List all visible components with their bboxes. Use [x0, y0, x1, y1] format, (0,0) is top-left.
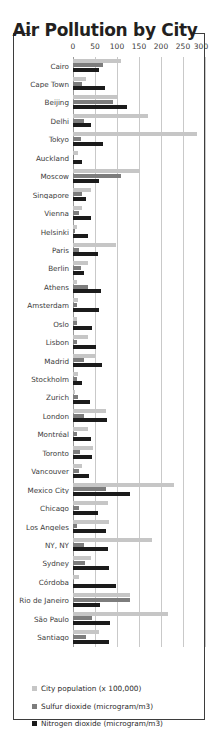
legend-label: Sulfur dioxide (microgram/m3)	[41, 702, 153, 711]
bar-so2	[73, 358, 84, 362]
category-label: Singapore	[0, 192, 73, 199]
category-label: Chicago	[0, 505, 73, 512]
chart-legend: City population (x 100,000)Sulfur dioxid…	[32, 684, 207, 737]
bar-so2	[73, 119, 84, 123]
bar-pop	[73, 261, 88, 265]
bar-group	[73, 112, 210, 130]
category-label: Moscow	[0, 173, 73, 180]
bar-group	[73, 205, 210, 223]
bar-so2	[73, 598, 130, 602]
bar-so2	[73, 266, 81, 270]
category-label: Vancouver	[0, 468, 73, 475]
bar-row: NY, NY	[0, 536, 210, 554]
bar-row: Moscow	[0, 168, 210, 186]
bar-group	[73, 186, 210, 204]
bar-group	[73, 297, 210, 315]
bar-so2	[73, 229, 75, 233]
bar-row: Cairo	[0, 57, 210, 75]
bar-group	[73, 223, 210, 241]
bar-group	[73, 592, 210, 610]
category-label: Los Angeles	[0, 524, 73, 531]
bar-pop	[73, 354, 95, 358]
category-label: Athens	[0, 284, 73, 291]
category-label: Lisbon	[0, 339, 73, 346]
bar-no2	[73, 437, 91, 441]
bar-pop	[73, 372, 78, 376]
bar-row: Rio de Janeiro	[0, 592, 210, 610]
bar-group	[73, 573, 210, 591]
bar-so2	[73, 414, 84, 418]
category-label: Berlin	[0, 265, 73, 272]
bar-group	[73, 407, 210, 425]
category-label: São Paulo	[0, 616, 73, 623]
bar-no2	[73, 252, 98, 256]
category-label: Cairo	[0, 63, 73, 70]
bar-so2	[73, 450, 80, 454]
category-label: Mexico City	[0, 487, 73, 494]
bar-so2	[73, 137, 81, 141]
legend-item[interactable]: Nitrogen dioxide (microgram/m3)	[32, 719, 207, 728]
bar-no2	[73, 547, 108, 551]
bar-row: Stockholm	[0, 370, 210, 388]
bar-group	[73, 426, 210, 444]
category-label: Córdoba	[0, 579, 73, 586]
legend-swatch-icon	[32, 686, 37, 691]
chart-title: Air Pollution by City	[0, 20, 210, 40]
bar-no2	[73, 142, 103, 146]
legend-item[interactable]: Sulfur dioxide (microgram/m3)	[32, 702, 207, 711]
bar-row: Berlin	[0, 260, 210, 278]
bar-so2	[73, 321, 77, 325]
bar-group	[73, 260, 210, 278]
bar-pop	[73, 225, 77, 229]
bar-pop	[73, 59, 121, 63]
bar-no2	[73, 566, 109, 570]
bar-row: Santiago	[0, 629, 210, 647]
legend-item[interactable]: City population (x 100,000)	[32, 684, 207, 693]
bar-pop	[73, 151, 78, 155]
category-label: Stockholm	[0, 376, 73, 383]
bar-no2	[73, 197, 86, 201]
bar-rows: CairoCape TownBeijingDelhiTokyoAucklandM…	[0, 57, 210, 647]
bar-row: Beijing	[0, 94, 210, 112]
bar-so2	[73, 100, 113, 104]
bar-pop	[73, 446, 93, 450]
bar-group	[73, 149, 210, 167]
bar-group	[73, 536, 210, 554]
bar-so2	[73, 377, 77, 381]
bar-no2	[73, 455, 92, 459]
chart-page: Air Pollution by City 050100150200250300…	[0, 0, 210, 744]
bar-pop	[73, 501, 108, 505]
x-axis-tick-50: 50	[90, 42, 100, 51]
category-label: Vienna	[0, 210, 73, 217]
bar-no2	[73, 492, 130, 496]
bar-pop	[73, 280, 77, 284]
bar-no2	[73, 179, 99, 183]
category-label: Santiago	[0, 634, 73, 641]
bar-so2	[73, 506, 79, 510]
category-label: Zurich	[0, 394, 73, 401]
category-label: Paris	[0, 247, 73, 254]
category-label: Auckland	[0, 155, 73, 162]
x-axis-tick-250: 250	[176, 42, 190, 51]
bar-so2	[73, 82, 82, 86]
bar-pop	[73, 593, 130, 597]
bar-row: Mexico City	[0, 481, 210, 499]
bar-pop	[73, 556, 91, 560]
bar-row: London	[0, 407, 210, 425]
bar-so2	[73, 63, 103, 67]
bar-pop	[73, 538, 152, 542]
bar-no2	[73, 105, 127, 109]
bar-pop	[73, 630, 99, 634]
bar-row: Delhi	[0, 112, 210, 130]
bar-group	[73, 444, 210, 462]
bar-no2	[73, 308, 99, 312]
x-axis-ticks: 050100150200250300	[0, 42, 210, 56]
bar-pop	[73, 188, 91, 192]
bar-so2	[73, 211, 79, 215]
legend-label: City population (x 100,000)	[41, 684, 141, 693]
category-label: Delhi	[0, 118, 73, 125]
bar-pop	[73, 298, 78, 302]
x-axis-tick-300: 300	[194, 42, 208, 51]
bar-row: São Paulo	[0, 610, 210, 628]
plot-area: 050100150200250300 CairoCape TownBeijing…	[0, 42, 210, 647]
